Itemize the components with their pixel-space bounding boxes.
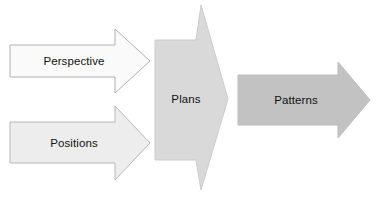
positions-label: Positions <box>50 137 98 149</box>
node-positions[interactable]: Positions <box>10 106 150 180</box>
plans-label: Plans <box>171 93 200 105</box>
perspective-label: Perspective <box>43 55 104 67</box>
process-flow-diagram: Perspective Positions Plans Patterns <box>0 0 380 201</box>
node-patterns[interactable]: Patterns <box>238 62 370 138</box>
diagram-canvas: Perspective Positions Plans Patterns <box>0 0 380 201</box>
node-perspective[interactable]: Perspective <box>10 29 150 93</box>
node-plans[interactable]: Plans <box>155 5 228 190</box>
patterns-label: Patterns <box>274 94 318 106</box>
